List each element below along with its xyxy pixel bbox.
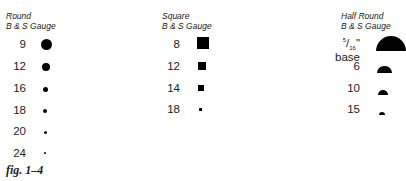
round-wire-24-icon: [44, 152, 46, 154]
half-round-gauge-label: 15: [340, 103, 360, 115]
round-header: Round B & S Gauge: [6, 11, 56, 31]
square-gauge-label: 14: [160, 82, 180, 94]
square-wire-14-icon: [198, 85, 204, 91]
half-round-wire-base-icon: [376, 36, 406, 51]
round-gauge-label: 12: [6, 60, 26, 72]
square-title: Square: [162, 11, 212, 21]
round-gauge-label: 16: [6, 82, 26, 94]
half-round-header: Half Round B & S Gauge: [341, 11, 391, 31]
figure-caption: fig. 1–4: [6, 163, 43, 178]
half-round-gauge-label: 10: [340, 82, 360, 94]
half-round-wire-6-icon: [377, 66, 392, 73]
square-gauge-label: 18: [160, 103, 180, 115]
square-gauge-label: 12: [160, 60, 180, 72]
round-gauge-label: 20: [6, 125, 26, 137]
half-round-title: Half Round: [341, 11, 391, 21]
square-wire-8-icon: [197, 37, 209, 49]
half-round-wire-15-icon: [379, 112, 385, 115]
round-gauge-label: 9: [6, 38, 26, 50]
half-round-wire-10-icon: [378, 90, 388, 95]
round-title: Round: [6, 11, 56, 21]
round-subtitle: B & S Gauge: [6, 21, 56, 31]
square-gauge-label: 8: [160, 38, 180, 50]
half-round-subtitle: B & S Gauge: [341, 21, 391, 31]
round-gauge-label: 24: [6, 147, 26, 159]
round-wire-18-icon: [43, 109, 47, 113]
round-wire-16-icon: [43, 87, 48, 92]
square-subtitle: B & S Gauge: [162, 21, 212, 31]
round-wire-9-icon: [41, 39, 52, 50]
round-wire-20-icon: [44, 131, 47, 134]
square-wire-12-icon: [198, 62, 206, 70]
half-round-gauge-label: 6: [340, 60, 360, 72]
round-wire-12-icon: [42, 63, 50, 71]
square-wire-18-icon: [199, 108, 202, 111]
round-gauge-label: 18: [6, 104, 26, 116]
square-header: Square B & S Gauge: [162, 11, 212, 31]
fraction-numerator: 5: [343, 37, 346, 43]
